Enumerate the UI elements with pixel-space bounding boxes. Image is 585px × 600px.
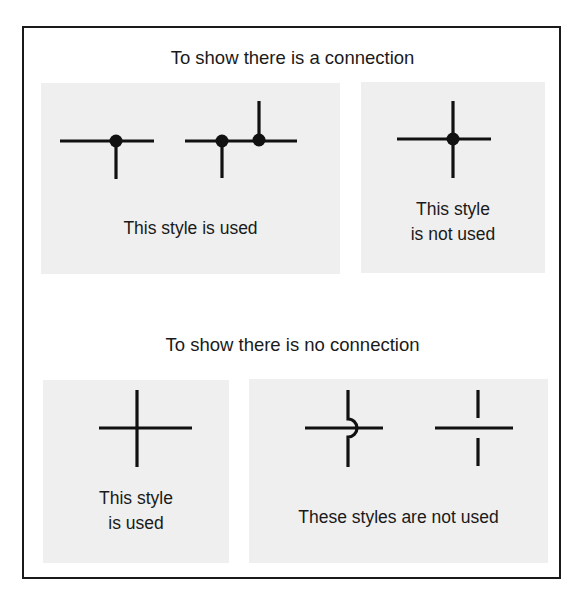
label-line: This style bbox=[43, 486, 229, 511]
broken-crossing-icon bbox=[435, 390, 513, 466]
label-line: This style is used bbox=[123, 218, 257, 238]
double-t-junction-dots-icon bbox=[185, 101, 297, 178]
label-connection-not-used: This style is not used bbox=[361, 197, 545, 247]
label-line: is not used bbox=[361, 222, 545, 247]
hop-over-crossing-icon bbox=[305, 390, 383, 467]
t-junction-dot-icon bbox=[60, 135, 154, 180]
label-no-connection-not-used: These styles are not used bbox=[249, 505, 548, 530]
label-line: These styles are not used bbox=[298, 507, 498, 527]
label-connection-used: This style is used bbox=[41, 216, 340, 241]
label-line: is used bbox=[43, 511, 229, 536]
cross-junction-dot-icon bbox=[397, 101, 491, 178]
label-line: This style bbox=[361, 197, 545, 222]
plain-crossing-icon bbox=[99, 390, 192, 467]
label-no-connection-used: This style is used bbox=[43, 486, 229, 536]
